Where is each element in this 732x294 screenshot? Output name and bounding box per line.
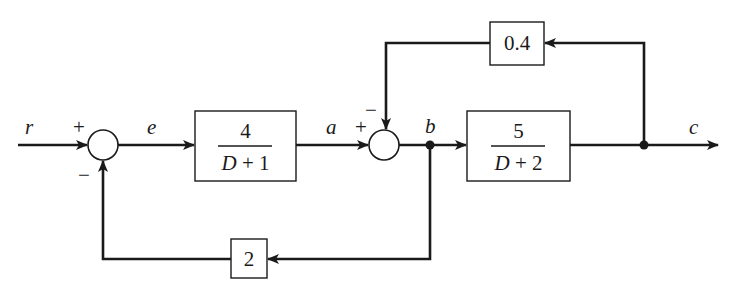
- block1-denominator: D + 1: [220, 151, 269, 175]
- forward-block-1: 4 D + 1: [195, 111, 296, 181]
- feedback-bottom-gain: 2: [244, 247, 255, 271]
- summing-junction-1: [88, 130, 118, 160]
- block2-numerator: 5: [513, 119, 524, 143]
- feedback-top-gain: 0.4: [504, 31, 531, 55]
- feedback-block-top: 0.4: [490, 22, 544, 65]
- signal-label-a: a: [326, 115, 337, 139]
- feedback-block-bottom: 2: [231, 239, 267, 278]
- block2-denominator: D + 2: [493, 151, 542, 175]
- signal-label-c: c: [689, 115, 699, 139]
- block-diagram: r + − e 4 D + 1 a + − b 5 D + 2 c 0.4: [0, 0, 732, 294]
- sum2-minus-sign: −: [365, 98, 377, 122]
- signal-label-r: r: [25, 115, 34, 139]
- sum1-minus-sign: −: [78, 163, 90, 187]
- sum1-plus-sign: +: [73, 115, 85, 139]
- summing-junction-2: [369, 130, 399, 160]
- forward-block-2: 5 D + 2: [467, 111, 570, 181]
- signal-label-e: e: [147, 115, 156, 139]
- signal-label-b: b: [425, 114, 436, 138]
- block1-numerator: 4: [240, 119, 251, 143]
